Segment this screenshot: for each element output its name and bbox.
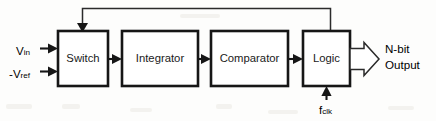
label-output-line2: Output [385,57,420,73]
connector-comparator-to-logic [288,54,303,64]
label-output: N-bit Output [385,41,420,73]
block-switch-label: Switch [66,52,99,64]
block-switch[interactable]: Switch [58,31,108,86]
block-comparator[interactable]: Comparator [211,31,288,86]
label-fclk: fclk [319,100,332,118]
block-integrator[interactable]: Integrator [122,31,198,86]
connector-integrator-to-comparator [198,54,211,64]
label-vref-base: V [13,67,21,80]
block-comparator-label: Comparator [220,52,280,64]
output-bus-arrow [350,43,379,76]
label-vin: Vin [16,41,30,59]
label-vref-subscript: ref [21,71,30,80]
block-logic-label: Logic [313,52,340,64]
input-arrow-vin [40,43,58,53]
block-integrator-label: Integrator [136,52,185,64]
clock-input-arrow [321,86,331,100]
label-vin-base: V [16,44,24,57]
label-vref: -Vref [9,64,30,82]
feedback-loop-path [77,9,331,33]
diagram-canvas: Switch Integrator Comparator Logic [0,0,436,121]
label-vin-subscript: in [24,48,30,57]
block-logic[interactable]: Logic [303,31,350,86]
input-arrow-vref [40,66,58,76]
label-fclk-subscript: clk [322,107,332,116]
connector-switch-to-integrator [108,54,122,64]
label-output-line1: N-bit [385,41,420,57]
adc-block-diagram: Switch Integrator Comparator Logic [0,0,436,121]
